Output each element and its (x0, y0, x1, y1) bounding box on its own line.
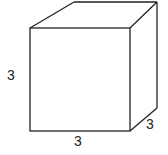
cube-front-face (30, 28, 130, 131)
cube-drawing (0, 0, 168, 155)
depth-label: 3 (146, 117, 154, 131)
width-label: 3 (74, 134, 82, 148)
height-label: 3 (7, 68, 15, 82)
cube-top-left-edge (30, 2, 74, 28)
cube-top-right-edge (130, 2, 157, 28)
